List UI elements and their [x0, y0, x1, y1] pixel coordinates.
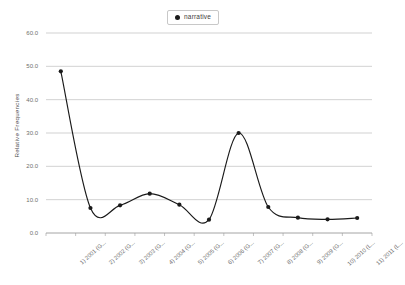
y-tick-label: 10.0 — [12, 197, 38, 203]
data-point: 1) 2001 (G...: 48.5 — [59, 69, 63, 73]
series-line-narrative — [61, 71, 357, 223]
data-point: 3) 2003 (G...: 8.3 — [118, 203, 122, 207]
data-point: 2) 2002 (G...: 7.5 — [88, 206, 92, 210]
series-markers-narrative: 1) 2001 (G...: 48.52) 2002 (G...: 7.53) … — [59, 69, 360, 222]
y-tick-label: 0.0 — [12, 230, 38, 236]
y-tick-label: 30.0 — [12, 130, 38, 136]
legend-label-narrative: narrative — [184, 14, 211, 21]
y-tick-label: 40.0 — [12, 97, 38, 103]
data-point: 10) 2010 (L...: 4.1 — [325, 217, 329, 221]
gridlines-group — [46, 33, 372, 233]
y-tick-label: 60.0 — [12, 30, 38, 36]
data-point: 5) 2005 (G...: 8.5 — [177, 203, 181, 207]
data-point: 7) 2007 (G...: 30 — [237, 131, 241, 135]
data-point: 6) 2006 (G...: 4 — [207, 218, 211, 222]
data-point: 9) 2009 (G...: 4.6 — [296, 216, 300, 220]
data-point: 11) 2011 (L...: 4.5 — [355, 216, 359, 220]
y-tick-label: 50.0 — [12, 63, 38, 69]
legend-marker-icon — [175, 15, 180, 20]
data-point: 8) 2008 (G...: 7.8 — [266, 205, 270, 209]
y-tick-label: 20.0 — [12, 163, 38, 169]
data-point: 4) 2004 (G...: 11.8 — [148, 192, 152, 196]
chart-legend: narrative — [167, 10, 219, 25]
